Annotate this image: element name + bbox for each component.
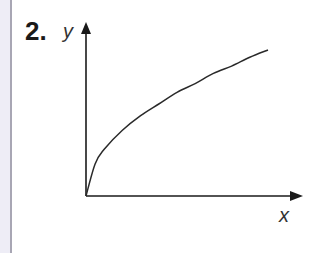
y-axis-arrow-icon [81,22,91,34]
chart-plot [0,0,334,253]
data-curve [86,50,268,196]
x-axis-arrow-icon [290,191,303,201]
